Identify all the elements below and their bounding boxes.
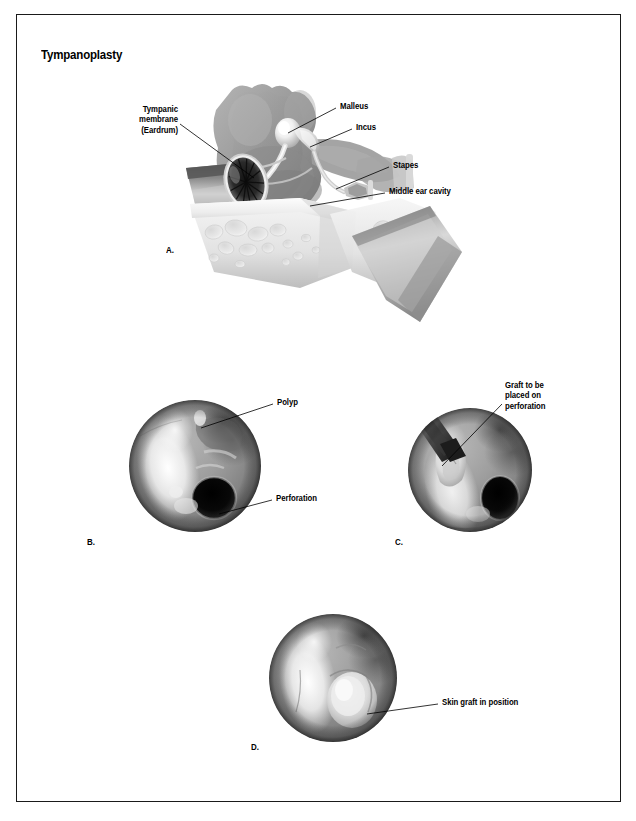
- annotation-stapes: Stapes: [393, 161, 418, 171]
- annotation-skin-graft-in-position: Skin graft in position: [442, 698, 518, 708]
- annotation-perforation: Perforation: [276, 494, 317, 504]
- annotation-middle-ear-cavity: Middle ear cavity: [389, 187, 451, 197]
- panel-letter-c: C.: [395, 537, 403, 547]
- annotation-incus: Incus: [356, 123, 376, 133]
- panel-letter-b: B.: [87, 537, 95, 547]
- annotation-polyp: Polyp: [277, 398, 298, 408]
- figure-page: Tympanoplasty: [0, 0, 636, 821]
- panel-letter-d: D.: [251, 742, 259, 752]
- panel-letter-a: A.: [166, 245, 174, 255]
- annotation-graft-to-be-placed: Graft to be placed on perforation: [505, 381, 600, 412]
- annotation-tympanic-membrane: Tympanic membrane (Eardrum): [64, 105, 178, 136]
- page-title: Tympanoplasty: [41, 48, 122, 62]
- annotation-malleus: Malleus: [340, 102, 368, 112]
